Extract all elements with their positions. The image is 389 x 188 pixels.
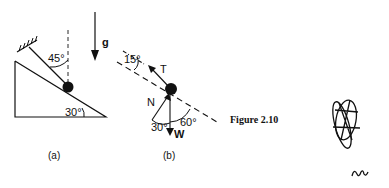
angle-30-normal: 30°: [151, 121, 168, 133]
panel-b-label: (b): [163, 150, 175, 161]
angle-45: 45°: [48, 52, 65, 64]
normal-label: N: [147, 96, 155, 108]
angle-30-incline: 30°: [65, 106, 82, 118]
gravity-label: g: [102, 36, 109, 48]
tension-label: T: [160, 63, 167, 75]
scribble-signature-icon: [329, 99, 368, 176]
panel-a: [15, 12, 106, 117]
incline-triangle: [15, 61, 106, 117]
figure-diagram: 45° 30° g (a) 15° T N 30° 60° W (b) Figu…: [0, 0, 389, 188]
ball-a: [63, 82, 74, 93]
gravity-arrow-icon: [91, 50, 99, 61]
ball-b: [165, 83, 177, 95]
weight-label: W: [174, 128, 185, 140]
figure-caption: Figure 2.10: [230, 114, 278, 125]
panel-a-label: (a): [48, 150, 60, 161]
angle-60: 60°: [180, 116, 197, 128]
angle-15: 15°: [124, 53, 141, 65]
figure-2-10: 45° 30° g (a) 15° T N 30° 60° W (b) Figu…: [0, 0, 389, 188]
